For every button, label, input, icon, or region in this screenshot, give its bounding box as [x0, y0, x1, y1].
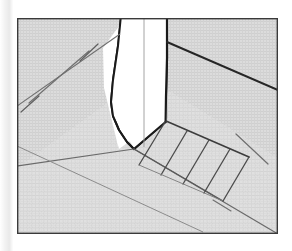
page-edge-strip	[0, 0, 13, 251]
figure-frame	[17, 18, 278, 234]
technical-illustration	[17, 18, 278, 234]
page-canvas	[0, 0, 292, 251]
